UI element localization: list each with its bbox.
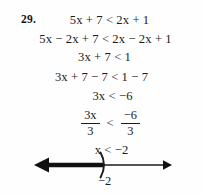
fraction-right: −6 3: [121, 109, 140, 138]
equation-step-1: 5x + 7 < 2x + 1: [0, 12, 203, 27]
number-line-graph: −2: [0, 150, 203, 194]
fraction-operator: <: [106, 116, 115, 131]
equation-step-4: 3x + 7 − 7 < 1 − 7: [0, 64, 203, 84]
right-arrow-icon: [163, 160, 172, 170]
fraction-right-denominator: 3: [124, 124, 136, 138]
equation-step-fraction: 3x 3 < −6 3: [0, 103, 203, 138]
fraction-left: 3x 3: [81, 109, 99, 138]
equation-step-2: 5x − 2x + 7 < 2x − 2x + 1: [0, 27, 203, 46]
fraction-right-numerator: −6: [121, 109, 140, 123]
number-line-endpoint-label: −2: [0, 174, 203, 189]
solution-steps: 5x + 7 < 2x + 1 5x − 2x + 7 < 2x − 2x + …: [0, 12, 203, 157]
fraction-left-denominator: 3: [84, 124, 96, 138]
equation-step-3: 3x + 7 < 1: [0, 45, 203, 64]
left-arrow-icon: [34, 158, 49, 173]
equation-step-5: 3x < −6: [0, 83, 203, 103]
fraction-left-numerator: 3x: [81, 109, 99, 123]
worksheet-page: 29. 5x + 7 < 2x + 1 5x − 2x + 7 < 2x − 2…: [0, 0, 203, 194]
